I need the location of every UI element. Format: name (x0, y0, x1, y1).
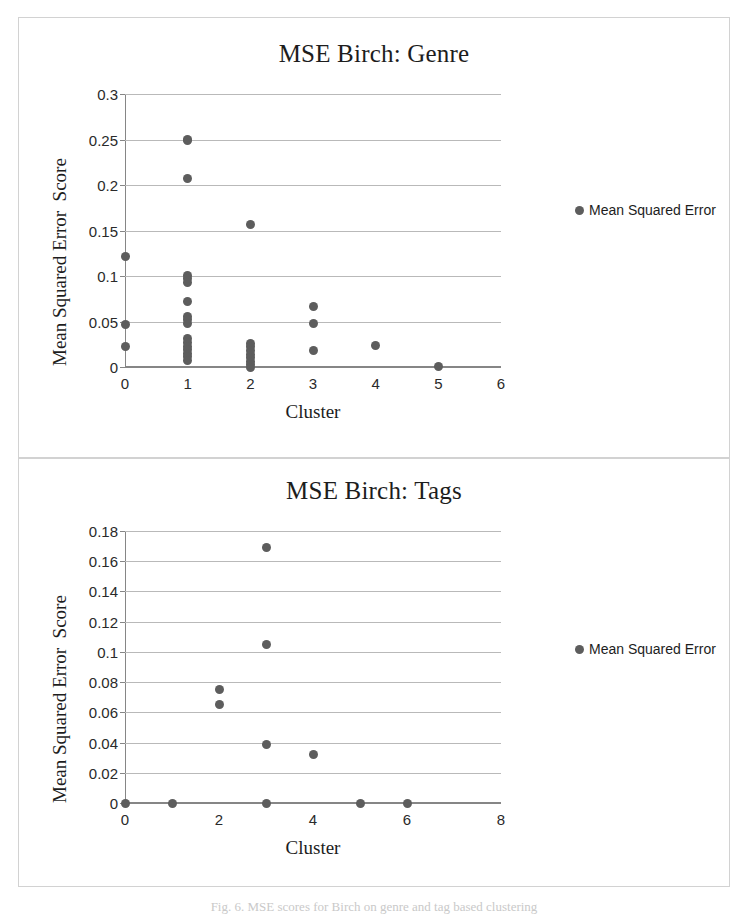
gridline-y (125, 652, 501, 653)
data-point (246, 363, 255, 372)
x-tick-label: 0 (121, 811, 129, 828)
data-point (121, 320, 130, 329)
y-tick-mark (120, 712, 125, 713)
legend-tags: Mean Squared Error (575, 641, 716, 657)
gridline-y (125, 140, 501, 141)
data-point (262, 640, 271, 649)
data-point (246, 220, 255, 229)
y-tick-mark (120, 773, 125, 774)
x-tick-label: 6 (497, 375, 505, 392)
y-axis-label-tags: Mean Squared Error Score (49, 595, 71, 803)
data-point (121, 799, 130, 808)
gridline-y (125, 682, 501, 683)
figure-container: MSE Birch: Genre Mean Squared Error Scor… (0, 0, 748, 923)
chart-panel-tags: MSE Birch: Tags Mean Squared Error Score… (18, 458, 730, 887)
plot-frame-tags (125, 531, 501, 803)
figure-caption: Fig. 6. MSE scores for Birch on genre an… (0, 899, 748, 921)
data-point (183, 278, 192, 287)
y-tick-mark (120, 591, 125, 592)
gridline-y (125, 712, 501, 713)
data-point (309, 750, 318, 759)
gridline-y (125, 743, 501, 744)
data-point (309, 319, 318, 328)
y-tick-mark (120, 622, 125, 623)
y-axis-label-genre: Mean Squared Error Score (49, 158, 71, 366)
x-tick-label: 4 (371, 375, 379, 392)
x-tick-label: 3 (309, 375, 317, 392)
y-tick-label: 0.08 (89, 674, 118, 691)
data-point (262, 740, 271, 749)
y-tick-label: 0 (110, 795, 118, 812)
gridline-y (125, 531, 501, 532)
data-point (121, 252, 130, 261)
data-point (262, 799, 271, 808)
y-tick-label: 0.05 (89, 313, 118, 330)
y-tick-mark (120, 367, 125, 368)
data-point (168, 799, 177, 808)
data-point (262, 543, 271, 552)
x-tick-label: 8 (497, 811, 505, 828)
gridline-y (125, 276, 501, 277)
y-tick-mark (120, 531, 125, 532)
x-tick-label: 6 (403, 811, 411, 828)
x-tick-label: 2 (246, 375, 254, 392)
y-tick-mark (120, 94, 125, 95)
y-tick-label: 0.04 (89, 734, 118, 751)
data-point (121, 342, 130, 351)
y-tick-mark (120, 231, 125, 232)
x-axis-label-genre: Cluster (125, 401, 501, 423)
y-tick-label: 0.02 (89, 764, 118, 781)
chart-title-tags: MSE Birch: Tags (19, 477, 729, 505)
y-tick-label: 0.06 (89, 704, 118, 721)
y-tick-label: 0.16 (89, 553, 118, 570)
gridline-y (125, 367, 501, 368)
data-point (215, 685, 224, 694)
y-tick-mark (120, 561, 125, 562)
x-tick-label: 4 (309, 811, 317, 828)
legend-genre: Mean Squared Error (575, 202, 716, 218)
data-point (403, 799, 412, 808)
legend-marker-icon (575, 645, 584, 654)
data-point (183, 136, 192, 145)
gridline-y (125, 94, 501, 95)
data-point (356, 799, 365, 808)
chart-title-genre: MSE Birch: Genre (19, 40, 729, 68)
data-point (309, 302, 318, 311)
y-tick-mark (120, 682, 125, 683)
data-point (215, 700, 224, 709)
gridline-y (125, 622, 501, 623)
gridline-y (125, 803, 501, 804)
x-axis-label-tags: Cluster (125, 837, 501, 859)
data-point (371, 341, 380, 350)
y-tick-label: 0.14 (89, 583, 118, 600)
y-tick-mark (120, 185, 125, 186)
plot-area-genre: 00.050.10.150.20.250.30123456 (125, 94, 501, 367)
chart-panel-genre: MSE Birch: Genre Mean Squared Error Scor… (18, 17, 730, 458)
x-tick-label: 5 (434, 375, 442, 392)
y-tick-mark (120, 140, 125, 141)
legend-label-mean-squared-error: Mean Squared Error (589, 641, 716, 657)
data-point (309, 346, 318, 355)
legend-marker-icon (575, 206, 584, 215)
x-tick-label: 0 (121, 375, 129, 392)
plot-area-tags: 00.020.040.060.080.10.120.140.160.180246… (125, 531, 501, 803)
y-tick-label: 0.15 (89, 222, 118, 239)
x-tick-label: 1 (183, 375, 191, 392)
y-tick-mark (120, 652, 125, 653)
legend-label-mean-squared-error: Mean Squared Error (589, 202, 716, 218)
y-tick-mark (120, 743, 125, 744)
y-tick-mark (120, 276, 125, 277)
y-tick-label: 0.3 (97, 86, 118, 103)
data-point (434, 362, 443, 371)
gridline-y (125, 231, 501, 232)
data-point (183, 319, 192, 328)
y-tick-label: 0.12 (89, 613, 118, 630)
y-tick-label: 0.2 (97, 177, 118, 194)
x-tick-label: 2 (215, 811, 223, 828)
y-tick-label: 0.1 (97, 643, 118, 660)
y-tick-label: 0.18 (89, 523, 118, 540)
y-tick-label: 0.25 (89, 131, 118, 148)
gridline-y (125, 773, 501, 774)
gridline-y (125, 185, 501, 186)
y-tick-label: 0 (110, 359, 118, 376)
